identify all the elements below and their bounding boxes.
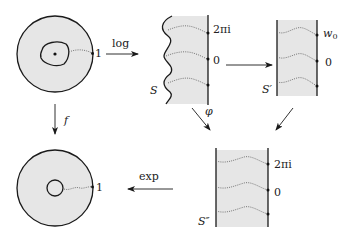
- label-w0: w0: [323, 27, 338, 41]
- strip-S-prime: w0 0 S′: [262, 20, 338, 96]
- arrow-f: f: [55, 104, 70, 134]
- label-exp: exp: [139, 170, 159, 183]
- label-log: log: [112, 37, 129, 50]
- label-zero-Sdd: 0: [274, 186, 281, 199]
- arrow-exp: exp: [128, 170, 173, 189]
- label-zero-Sprime: 0: [325, 56, 332, 69]
- label-S-double-prime: S″: [198, 215, 211, 228]
- arrow-Sprime-to-Sdd: [276, 108, 293, 130]
- commutative-diagram: 1 log 2πi 0 S w0 0 S′: [0, 0, 349, 241]
- label-phi: φ: [205, 105, 213, 118]
- label-S: S: [150, 84, 158, 97]
- label-one-top: 1: [95, 47, 102, 60]
- label-f: f: [63, 114, 70, 127]
- label-2pii-S: 2πi: [213, 23, 231, 36]
- label-one-bottom: 1: [96, 181, 103, 194]
- strip-S: 2πi 0 S: [150, 15, 231, 105]
- round-annulus: 1: [17, 150, 103, 226]
- annulus-domain: 1: [17, 16, 102, 92]
- center-point: [53, 52, 56, 55]
- label-zero-S: 0: [213, 54, 220, 67]
- label-2pii-Sdd: 2πi: [274, 158, 292, 171]
- arrow-log: log: [106, 37, 138, 54]
- strip-S-double-prime: 2πi 0 S″: [198, 148, 292, 228]
- arrow-phi: φ: [192, 105, 213, 130]
- label-S-prime: S′: [262, 83, 273, 96]
